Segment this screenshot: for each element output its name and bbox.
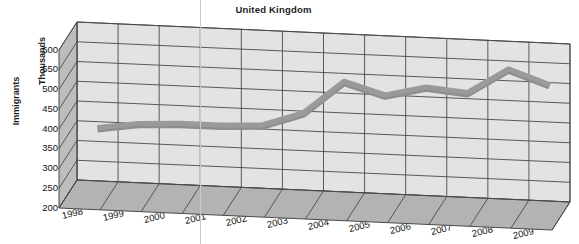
scanline-artifact bbox=[200, 0, 201, 244]
plot-area bbox=[0, 0, 579, 244]
chart-container: United Kingdom Immigrants Thousands 6005… bbox=[0, 0, 579, 244]
